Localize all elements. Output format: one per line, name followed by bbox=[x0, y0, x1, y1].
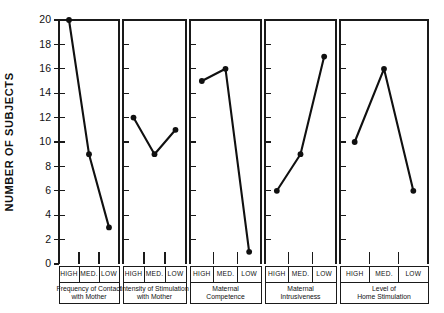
y-axis-tick-label: 4 bbox=[45, 208, 51, 220]
y-axis-tick-label: 16 bbox=[39, 62, 51, 74]
chart-figure: 02468101214161820NUMBER OF SUBJECTS HIGH… bbox=[0, 0, 444, 313]
category-label-med: MED. bbox=[292, 270, 309, 277]
data-point bbox=[321, 54, 327, 60]
y-axis-title: NUMBER OF SUBJECTS bbox=[3, 72, 15, 211]
data-point bbox=[199, 78, 205, 84]
panel-title-line2: Competence bbox=[206, 293, 245, 301]
category-label-high: HIGH bbox=[268, 270, 285, 277]
data-point bbox=[246, 249, 252, 255]
data-point bbox=[410, 188, 416, 194]
y-axis-tick-label: 8 bbox=[45, 160, 51, 172]
data-point bbox=[66, 17, 72, 23]
category-label-low: LOW bbox=[241, 270, 257, 277]
y-axis-tick-label: 2 bbox=[45, 233, 51, 245]
category-label-low: LOW bbox=[316, 270, 332, 277]
y-axis-tick-label: 12 bbox=[39, 111, 51, 123]
panel-title-line2: Home Stimulation bbox=[357, 293, 411, 300]
y-axis-tick-label: 20 bbox=[39, 13, 51, 25]
y-axis-tick-label: 0 bbox=[45, 257, 51, 269]
category-label-high: HIGH bbox=[60, 270, 77, 277]
data-point bbox=[298, 151, 304, 157]
category-label-med: MED. bbox=[80, 270, 97, 277]
y-axis-tick-label: 18 bbox=[39, 38, 51, 50]
data-point bbox=[223, 66, 229, 72]
category-label-med: MED. bbox=[146, 270, 163, 277]
data-point bbox=[381, 66, 387, 72]
category-label-low: LOW bbox=[168, 270, 184, 277]
y-axis-tick-label: 10 bbox=[39, 135, 51, 147]
data-point bbox=[106, 225, 112, 231]
y-axis-tick-label: 14 bbox=[39, 86, 51, 98]
data-point bbox=[173, 127, 179, 133]
data-point bbox=[152, 151, 158, 157]
data-point bbox=[352, 139, 358, 145]
panel-title-line1: Intensity of Stimulation bbox=[120, 285, 189, 293]
panel-title-line2: with Mother bbox=[70, 293, 107, 300]
category-label-med: MED. bbox=[375, 270, 392, 277]
data-point bbox=[131, 115, 137, 121]
panel-title-line2: Intrusiveness bbox=[280, 293, 321, 300]
panel-title-line2: with Mother bbox=[136, 293, 173, 300]
category-label-high: HIGH bbox=[346, 270, 363, 277]
data-point bbox=[274, 188, 280, 194]
category-label-low: LOW bbox=[405, 270, 421, 277]
category-label-low: LOW bbox=[101, 270, 117, 277]
panel-title-line1: Level of bbox=[372, 285, 396, 292]
multi-panel-line-chart: 02468101214161820NUMBER OF SUBJECTS HIGH… bbox=[0, 0, 444, 313]
category-label-med: MED. bbox=[217, 270, 234, 277]
category-label-high: HIGH bbox=[125, 270, 142, 277]
panel-title-line1: Maternal bbox=[212, 285, 239, 292]
panel-title-line1: Maternal bbox=[287, 285, 314, 292]
panel-title-line1: Frequency of Contact bbox=[57, 285, 122, 293]
data-point bbox=[86, 151, 92, 157]
y-axis-tick-label: 6 bbox=[45, 184, 51, 196]
category-label-high: HIGH bbox=[193, 270, 210, 277]
